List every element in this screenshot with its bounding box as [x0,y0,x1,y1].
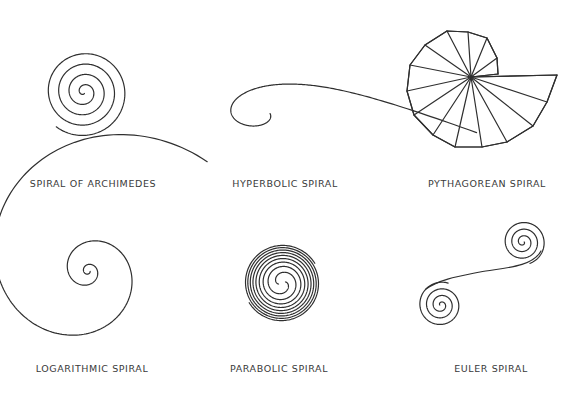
logarithmic-spiral-drawing [0,135,207,336]
archimedes-spiral-drawing [48,54,125,136]
label-parabolic-spiral: Parabolic Spiral [230,363,328,374]
label-pythagorean-spiral: Pythagorean Spiral [428,178,546,189]
label-euler-spiral: Euler Spiral [454,363,528,374]
euler-spiral-drawing [420,223,544,325]
label-logarithmic-spiral: Logarithmic Spiral [36,363,149,374]
pythagorean-spiral-drawing [407,31,557,147]
parabolic-spiral-drawing [246,245,319,320]
spiral-illustrations [0,0,581,395]
label-spiral-of-archimedes: Spiral of Archimedes [30,178,156,189]
label-hyperbolic-spiral: Hyperbolic Spiral [232,178,338,189]
